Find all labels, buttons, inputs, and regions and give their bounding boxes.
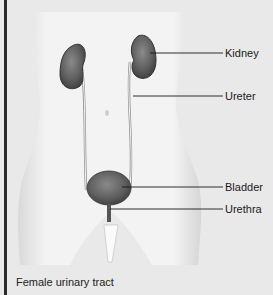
label-urethra: Urethra: [225, 203, 262, 215]
label-ureter: Ureter: [225, 90, 256, 102]
label-bladder: Bladder: [225, 181, 263, 193]
bladder: [87, 171, 131, 205]
urinary-tract-illustration: [0, 0, 273, 295]
torso: [18, 12, 201, 265]
figure-caption: Female urinary tract: [16, 276, 114, 288]
urethra: [107, 204, 111, 222]
label-kidney: Kidney: [225, 47, 259, 59]
